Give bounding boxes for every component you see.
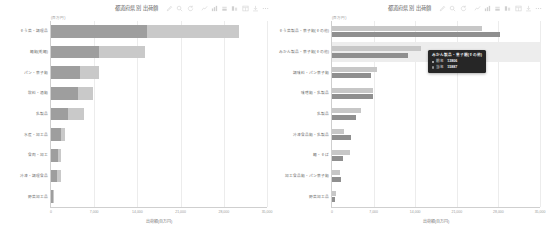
magic-type-line-icon[interactable]	[474, 5, 481, 12]
gridline	[267, 21, 268, 207]
bar-segment[interactable]	[68, 108, 84, 121]
stacked-bar[interactable]	[51, 46, 267, 59]
dual-chart-comparison-page: 都道府県別 出荷額 (百万円) そう菜・調理品麺類(乾麺)パン・菓子類飲料・酒類…	[0, 0, 546, 236]
chart-bar-row[interactable]: 味噌類・乳製品	[332, 83, 540, 104]
bar-segment[interactable]	[51, 128, 61, 141]
chart-bar-row[interactable]: 野菜加工品	[51, 186, 267, 207]
toolbox-divider	[470, 6, 471, 12]
magic-type-stack-icon[interactable]	[494, 5, 501, 12]
bar-segment[interactable]	[99, 46, 145, 59]
bar-segment[interactable]	[58, 149, 61, 162]
x-axis-tick-label: 0	[331, 210, 333, 214]
stacked-bar[interactable]	[51, 25, 267, 38]
chart-bar-row[interactable]: 麺・そば	[332, 145, 540, 166]
bar-segment[interactable]	[51, 87, 78, 100]
bar-segment[interactable]	[51, 108, 68, 121]
bar[interactable]	[332, 170, 340, 175]
right-chart-toolbox[interactable]	[439, 4, 542, 13]
right-plot-area: (百万円) そう菜製品・菓子類(その他)みかん製品・菓子類(その他)調味料・パン…	[331, 21, 540, 208]
bar-segment[interactable]	[78, 87, 93, 100]
stacked-bar[interactable]	[51, 170, 267, 183]
bar[interactable]	[332, 88, 373, 93]
toolbox-divider	[197, 6, 198, 12]
save-image-icon[interactable]	[252, 5, 259, 12]
brush-icon[interactable]	[166, 5, 173, 12]
data-view-icon[interactable]	[242, 5, 249, 12]
bar[interactable]	[332, 73, 371, 78]
bar[interactable]	[332, 197, 335, 202]
left-bar-rows: そう菜・調理品麺類(乾麺)パン・菓子類飲料・酒類乳製品水産・加工品食肉・加工冷凍…	[51, 21, 267, 207]
chart-bar-row[interactable]: 乳製品	[332, 104, 540, 125]
bar[interactable]	[332, 177, 341, 182]
bar-segment[interactable]	[51, 25, 147, 38]
bar[interactable]	[332, 129, 344, 134]
magic-type-tiled-icon[interactable]	[504, 5, 511, 12]
bar[interactable]	[332, 67, 377, 72]
magic-type-bar-icon[interactable]	[211, 5, 218, 12]
grouped-bar[interactable]	[332, 186, 540, 207]
bar-segment[interactable]	[147, 25, 239, 38]
brush-icon[interactable]	[439, 5, 446, 12]
chart-bar-row[interactable]: 加工食品類・パン菓子類	[332, 166, 540, 187]
save-image-icon[interactable]	[525, 5, 532, 12]
y-axis-category-label: 味噌類・乳製品	[301, 91, 329, 95]
bar-segment[interactable]	[51, 46, 99, 59]
grouped-bar[interactable]	[332, 83, 540, 104]
more-icon[interactable]	[535, 5, 542, 12]
chart-bar-row[interactable]: 食肉・加工	[51, 145, 267, 166]
chart-bar-row[interactable]: 乳製品	[51, 104, 267, 125]
stacked-bar[interactable]	[51, 108, 267, 121]
bar[interactable]	[332, 32, 500, 37]
chart-bar-row[interactable]: 野菜加工品	[332, 186, 540, 207]
y-axis-category-label: 冷凍食品類・乳製品	[293, 133, 329, 137]
grouped-bar[interactable]	[332, 21, 540, 42]
bar[interactable]	[332, 46, 421, 51]
left-chart-toolbox[interactable]	[166, 4, 269, 13]
stacked-bar[interactable]	[51, 128, 267, 141]
chart-bar-row[interactable]: 冷凍食品類・乳製品	[332, 124, 540, 145]
bar-segment[interactable]	[61, 128, 65, 141]
chart-bar-row[interactable]: そう菜製品・菓子類(その他)	[332, 21, 540, 42]
bar[interactable]	[332, 26, 482, 31]
chart-bar-row[interactable]: 飲料・酒類	[51, 83, 267, 104]
y-axis-category-label: 加工食品類・パン菓子類	[285, 174, 329, 178]
stacked-bar[interactable]	[51, 66, 267, 79]
data-zoom-icon[interactable]	[449, 5, 456, 12]
bar[interactable]	[332, 115, 356, 120]
bar[interactable]	[332, 135, 351, 140]
stacked-bar[interactable]	[51, 190, 267, 203]
bar[interactable]	[332, 94, 373, 99]
bar-segment[interactable]	[57, 170, 61, 183]
bar-segment[interactable]	[51, 149, 58, 162]
bar-segment[interactable]	[80, 66, 100, 79]
grouped-bar[interactable]	[332, 145, 540, 166]
restore-icon[interactable]	[460, 5, 467, 12]
magic-type-line-icon[interactable]	[201, 5, 208, 12]
magic-type-stack-icon[interactable]	[221, 5, 228, 12]
bar[interactable]	[332, 53, 408, 58]
bar[interactable]	[332, 150, 350, 155]
x-axis-tick-label: 14,000	[132, 210, 143, 214]
magic-type-tiled-icon[interactable]	[231, 5, 238, 12]
bar[interactable]	[332, 156, 343, 161]
magic-type-bar-icon[interactable]	[484, 5, 491, 12]
stacked-bar[interactable]	[51, 149, 267, 162]
chart-bar-row[interactable]: 水産・加工品	[51, 124, 267, 145]
grouped-bar[interactable]	[332, 124, 540, 145]
grouped-bar[interactable]	[332, 166, 540, 187]
bar[interactable]	[332, 108, 361, 113]
bar-segment[interactable]	[51, 66, 80, 79]
bar[interactable]	[332, 191, 336, 196]
chart-bar-row[interactable]: 麺類(乾麺)	[51, 42, 267, 63]
data-zoom-icon[interactable]	[176, 5, 183, 12]
more-icon[interactable]	[262, 5, 269, 12]
chart-tooltip: みかん製品・菓子類(その他) 前年 13806 当年 15887	[428, 50, 486, 72]
data-view-icon[interactable]	[515, 5, 522, 12]
grouped-bar[interactable]	[332, 104, 540, 125]
chart-bar-row[interactable]: そう菜・調理品	[51, 21, 267, 42]
stacked-bar[interactable]	[51, 87, 267, 100]
chart-bar-row[interactable]: パン・菓子類	[51, 62, 267, 83]
chart-bar-row[interactable]: 冷凍・調理食品	[51, 166, 267, 187]
y-axis-category-label: 麺・そば	[313, 153, 329, 157]
restore-icon[interactable]	[187, 5, 194, 12]
